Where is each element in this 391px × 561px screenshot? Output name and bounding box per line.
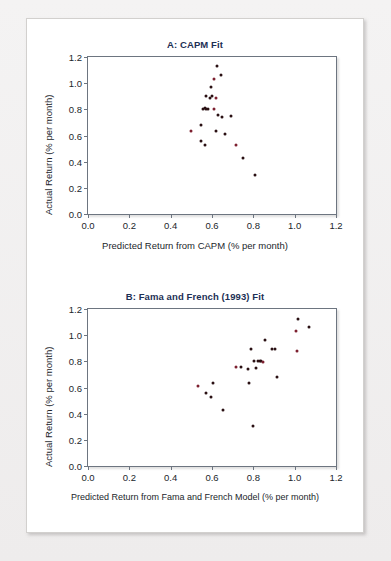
chart-b-data-point (222, 409, 225, 412)
chart-a-data-point (220, 116, 223, 119)
chart-b-xtick-label: 0.8 (247, 472, 260, 483)
chart-b-xtick-label: 0.0 (81, 472, 94, 483)
chart-b-xtick (129, 466, 130, 470)
chart-a-data-point (204, 143, 207, 146)
chart-b-xtick (253, 466, 254, 470)
chart-b-ytick (84, 335, 88, 336)
chart-a-xtick (171, 214, 172, 218)
chart-a-xtick-label: 1.2 (329, 220, 342, 231)
chart-panel-b: B: Fama and French (1993) Fit 0.00.20.40… (27, 277, 363, 527)
chart-b-data-point (247, 368, 250, 371)
chart-b-xtick-label: 0.4 (164, 472, 177, 483)
chart-a-data-point (229, 114, 232, 117)
chart-b-data-point (276, 376, 279, 379)
chart-b-ytick (84, 414, 88, 415)
chart-b-data-point (263, 339, 266, 342)
figure-card: A: CAPM Fit 0.00.20.40.60.81.01.20.00.20… (26, 18, 364, 533)
chart-a-title: A: CAPM Fit (27, 39, 363, 50)
chart-a-data-point (235, 144, 238, 147)
chart-b-xtick-label: 1.2 (329, 472, 342, 483)
chart-a-xtick (212, 214, 213, 218)
chart-a-data-point (214, 129, 217, 132)
chart-b-plot-area: 0.00.20.40.60.81.01.20.00.20.40.60.81.01… (87, 308, 337, 467)
chart-a-data-point (215, 65, 218, 68)
chart-a-ytick (84, 136, 88, 137)
chart-a-data-point (200, 140, 203, 143)
chart-b-xtick (295, 466, 296, 470)
chart-a-ytick-label: 0.8 (69, 104, 82, 115)
chart-a-yaxis-label: Actual Return (% per month) (43, 95, 54, 215)
chart-panel-a: A: CAPM Fit 0.00.20.40.60.81.01.20.00.20… (27, 25, 363, 275)
chart-b-data-point (274, 347, 277, 350)
chart-a-xtick (129, 214, 130, 218)
chart-a-data-point (220, 74, 223, 77)
chart-a-data-point (242, 156, 245, 159)
chart-b-data-point (308, 326, 311, 329)
chart-b-data-point (247, 381, 250, 384)
chart-a-ytick (84, 57, 88, 58)
chart-b-xtick-label: 0.6 (205, 472, 218, 483)
chart-b-ytick-label: 0.8 (69, 356, 82, 367)
chart-b-data-point (294, 330, 297, 333)
chart-b-data-point (209, 395, 212, 398)
chart-a-xtick (295, 214, 296, 218)
chart-a-xtick-label: 0.4 (164, 220, 177, 231)
figure-card-inner: A: CAPM Fit 0.00.20.40.60.81.01.20.00.20… (27, 19, 363, 532)
chart-b-xtick (171, 466, 172, 470)
chart-b-ytick-label: 0.4 (69, 408, 82, 419)
figure-background: A: CAPM Fit 0.00.20.40.60.81.01.20.00.20… (0, 0, 391, 561)
chart-b-data-point (240, 366, 243, 369)
chart-a-ytick-label: 1.2 (69, 52, 82, 63)
chart-b-ytick-label: 1.2 (69, 304, 82, 315)
chart-a-xtick-label: 0.2 (123, 220, 136, 231)
chart-b-data-point (250, 347, 253, 350)
chart-a-ytick-label: 1.0 (69, 78, 82, 89)
chart-b-data-point (295, 349, 298, 352)
chart-a-ytick (84, 188, 88, 189)
chart-b-data-point (235, 366, 238, 369)
chart-b-ytick-label: 1.0 (69, 330, 82, 341)
chart-a-data-point (216, 113, 219, 116)
chart-b-ytick (84, 309, 88, 310)
chart-b-ytick-label: 0.6 (69, 382, 82, 393)
chart-a-ytick-label: 0.0 (69, 209, 82, 220)
chart-a-data-point (224, 132, 227, 135)
chart-b-data-point (196, 384, 199, 387)
chart-a-data-point (212, 78, 215, 81)
chart-b-xaxis-label: Predicted Return from Fama and French Mo… (27, 492, 363, 502)
chart-a-xtick (336, 214, 337, 218)
chart-b-data-point (261, 360, 264, 363)
chart-a-xaxis-label: Predicted Return from CAPM (% per month) (27, 240, 363, 251)
chart-a-xtick-label: 1.0 (288, 220, 301, 231)
chart-a-xtick-label: 0.0 (81, 220, 94, 231)
chart-a-data-point (210, 86, 213, 89)
chart-b-ytick-label: 0.2 (69, 434, 82, 445)
chart-a-data-point (204, 95, 207, 98)
chart-b-ytick (84, 440, 88, 441)
chart-b-data-point (255, 366, 258, 369)
chart-b-xtick (336, 466, 337, 470)
chart-b-yaxis-label: Actual Return (% per month) (43, 347, 54, 467)
chart-a-data-point (253, 173, 256, 176)
chart-b-ytick-label: 0.0 (69, 461, 82, 472)
chart-b-xtick (88, 466, 89, 470)
chart-a-plot-area: 0.00.20.40.60.81.01.20.00.20.40.60.81.01… (87, 56, 337, 215)
chart-a-xtick-label: 0.6 (205, 220, 218, 231)
chart-b-data-point (212, 381, 215, 384)
chart-b-data-point (296, 317, 299, 320)
chart-a-data-point (190, 129, 193, 132)
chart-a-data-point (213, 108, 216, 111)
chart-b-xtick-label: 1.0 (288, 472, 301, 483)
chart-b-data-point (204, 392, 207, 395)
chart-b-ytick (84, 361, 88, 362)
chart-a-ytick-label: 0.6 (69, 130, 82, 141)
chart-a-ytick (84, 83, 88, 84)
chart-a-data-point (215, 97, 218, 100)
chart-a-xtick-label: 0.8 (247, 220, 260, 231)
chart-b-data-point (252, 425, 255, 428)
chart-a-ytick (84, 109, 88, 110)
chart-a-ytick-label: 0.4 (69, 156, 82, 167)
chart-a-data-point (208, 96, 211, 99)
chart-a-ytick-label: 0.2 (69, 182, 82, 193)
chart-b-xtick-label: 0.2 (123, 472, 136, 483)
